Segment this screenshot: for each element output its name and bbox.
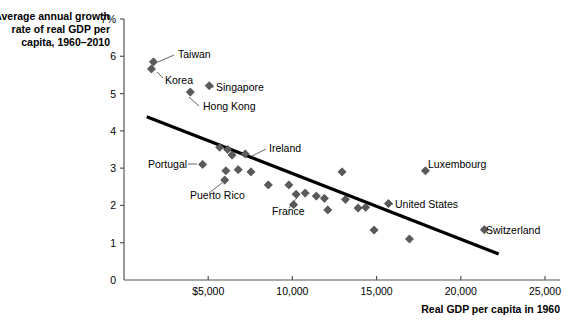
annotation-leader (158, 55, 174, 62)
point-label: Luxembourg (428, 158, 487, 170)
point-label: Puerto Rico (190, 189, 245, 201)
data-point (320, 194, 328, 202)
y-axis-title-line: Average annual growth (0, 10, 110, 22)
x-axis-title: Real GDP per capita in 1960 (421, 303, 560, 315)
y-tick-label: 2 (110, 199, 116, 211)
y-axis-title-line: rate of real GDP per (12, 23, 110, 35)
data-point (264, 181, 272, 189)
annotation-leader (157, 72, 163, 78)
point-label: Korea (165, 74, 193, 86)
x-tick-label: 15,000 (361, 285, 393, 297)
point-label: France (272, 205, 305, 217)
y-axis-title-line: capita, 1960–2010 (21, 36, 110, 48)
data-point (186, 88, 194, 96)
data-point (405, 235, 413, 243)
data-point (205, 82, 213, 90)
point-label: Portugal (148, 158, 187, 170)
data-point (247, 168, 255, 176)
data-point (285, 181, 293, 189)
data-point (338, 168, 346, 176)
trend-line (147, 117, 499, 254)
y-tick-label: 5 (110, 88, 116, 100)
data-point (312, 192, 320, 200)
annotation-leader (252, 149, 266, 156)
y-tick-label: 1 (110, 237, 116, 249)
y-tick-label: 6 (110, 50, 116, 62)
point-label: Hong Kong (203, 100, 256, 112)
point-label: Ireland (269, 142, 301, 154)
data-point (147, 65, 155, 73)
data-point (292, 190, 300, 198)
y-tick-label: 0 (110, 274, 116, 286)
point-label: Singapore (216, 81, 264, 93)
data-point (354, 204, 362, 212)
data-point (199, 160, 207, 168)
data-point (370, 226, 378, 234)
point-label: Taiwan (178, 48, 211, 60)
point-label: Switzerland (486, 224, 540, 236)
data-point (222, 167, 230, 175)
data-point (149, 58, 157, 66)
chart-canvas: 01234567%$5,00010,00015,00020,00025,000R… (0, 0, 585, 325)
y-tick-label: 4 (110, 125, 116, 137)
x-tick-label: 10,000 (276, 285, 308, 297)
x-tick-label: 20,000 (445, 285, 477, 297)
annotation-leader (189, 97, 199, 106)
data-point (301, 189, 309, 197)
data-point (324, 206, 332, 214)
x-tick-label: 25,000 (529, 285, 561, 297)
data-point (234, 166, 242, 174)
x-tick-label: $5,000 (192, 285, 224, 297)
y-tick-label: 3 (110, 162, 116, 174)
scatter-chart: 01234567%$5,00010,00015,00020,00025,000R… (0, 0, 585, 325)
point-label: United States (395, 198, 458, 210)
